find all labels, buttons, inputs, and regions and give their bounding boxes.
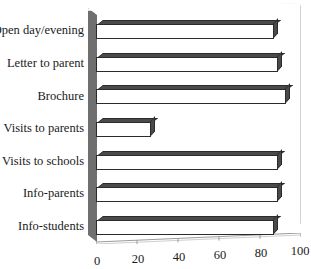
x-axis-tick-labels: 0 20 40 60 80 100 (0, 245, 311, 263)
bar-end-cap-info-parents (277, 181, 282, 202)
x-tick-label-20: 20 (132, 252, 145, 266)
x-tick-label-100: 100 (291, 244, 310, 258)
bar-letter-to-parent (96, 57, 278, 72)
bar-series (0, 0, 311, 245)
bar-end-cap-visits-to-schools (277, 149, 282, 170)
bar-end-cap-info-students (273, 214, 278, 235)
bar-end-cap-open-day-evening (273, 18, 278, 39)
bar-visits-to-parents (96, 122, 151, 137)
bar-end-cap-letter-to-parent (277, 51, 282, 72)
x-tick-label-60: 60 (214, 248, 227, 262)
bar-end-cap-brochure (285, 83, 290, 104)
x-tick-label-80: 80 (255, 246, 268, 260)
bar-chart: Open day/evening Letter to parent Brochu… (0, 0, 311, 269)
bar-info-parents (96, 187, 278, 202)
bar-brochure (96, 89, 286, 104)
bar-end-cap-visits-to-parents (150, 116, 155, 137)
bar-open-day-evening (96, 24, 274, 39)
x-tick-label-40: 40 (173, 250, 186, 264)
x-tick-label-0: 0 (94, 254, 100, 268)
bar-info-students (96, 220, 274, 235)
bar-visits-to-schools (96, 155, 278, 170)
